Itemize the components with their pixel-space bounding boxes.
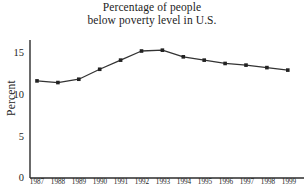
data-point-1990: 1990: 13.1% xyxy=(98,67,102,71)
data-point-1992: 1992: 15.3% xyxy=(140,49,144,53)
data-point-1991: 1991: 14.2% xyxy=(119,58,123,62)
data-point-1993: 1993: 15.4% xyxy=(161,48,165,52)
series-line xyxy=(37,50,288,82)
data-point-1998: 1998: 13.3% xyxy=(265,66,269,70)
data-point-1995: 1995: 14.2% xyxy=(202,58,206,62)
data-point-1987: 1987: 11.7% xyxy=(35,79,39,83)
poverty-line-chart: Percentage of people below poverty level… xyxy=(0,0,304,185)
plot-area: 1987: 11.7%1988: 11.5%1989: 11.9%1990: 1… xyxy=(0,0,304,185)
data-point-1989: 1989: 11.9% xyxy=(77,77,81,81)
data-series-poverty-rate: 1987: 11.7%1988: 11.5%1989: 11.9%1990: 1… xyxy=(35,48,289,84)
data-point-1996: 1996: 13.8% xyxy=(223,62,227,66)
data-point-1988: 1988: 11.5% xyxy=(56,81,60,85)
data-point-1999: 1999: 13% xyxy=(286,68,290,72)
data-point-1994: 1994: 14.6% xyxy=(182,55,186,59)
data-point-1997: 1997: 13.6% xyxy=(244,63,248,67)
